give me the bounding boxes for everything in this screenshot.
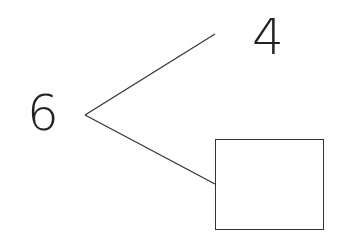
part-number-1: 4: [252, 12, 284, 62]
whole-number: 6: [27, 88, 59, 138]
line-to-part-1: [85, 34, 215, 115]
line-to-part-2: [85, 115, 215, 184]
answer-box[interactable]: [215, 139, 324, 230]
